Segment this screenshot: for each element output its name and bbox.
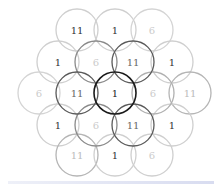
cell-label-channel-6: 6 — [149, 25, 155, 36]
cell-label-channel-11: 11 — [184, 88, 197, 99]
cell-label-channel-6: 6 — [150, 88, 156, 99]
cell-label-channel-11: 11 — [127, 120, 140, 131]
cell-label-channel-1: 1 — [112, 88, 118, 99]
cell-label-channel-1: 1 — [169, 57, 175, 68]
cell-label-channel-6: 6 — [93, 120, 99, 131]
cell-label-channel-11: 11 — [71, 25, 84, 36]
cell-label-channel-1: 1 — [112, 150, 118, 161]
cell-label-channel-11: 11 — [71, 150, 84, 161]
cell-label-channel-11: 11 — [71, 88, 84, 99]
cell-label-channel-6: 6 — [149, 150, 155, 161]
bottom-bar — [8, 181, 214, 184]
channel-reuse-diagram: 1116161116111611161111116 — [0, 0, 224, 185]
cell-label-channel-6: 6 — [93, 57, 99, 68]
cell-label-channel-1: 1 — [169, 120, 175, 131]
cell-label-channel-1: 1 — [112, 25, 118, 36]
cell-label-channel-1: 1 — [55, 57, 61, 68]
cell-label-channel-11: 11 — [127, 57, 140, 68]
cell-label-channel-1: 1 — [55, 120, 61, 131]
cell-label-channel-6: 6 — [36, 88, 42, 99]
